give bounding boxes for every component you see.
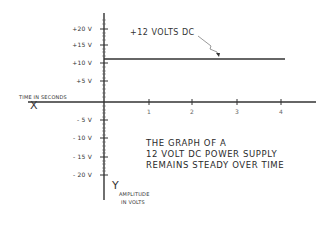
x-tick-label: 1 [147, 108, 151, 115]
series-label: +12 VOLTS DC [130, 28, 195, 37]
y-tick-label: - 15 V [58, 153, 92, 160]
y-tick-label: +15 V [58, 41, 92, 48]
y-tick-label: +10 V [58, 59, 92, 66]
y-axis-title-line1: AMPLITUDE [119, 191, 150, 197]
annotation-arrow-icon [198, 36, 220, 57]
caption-line-3: REMAINS STEADY OVER TIME [146, 160, 284, 171]
x-axis-letter: X [30, 99, 38, 112]
x-tick-label: 2 [190, 108, 194, 115]
y-axis-letter: Y [112, 179, 119, 192]
x-axis-title: TIME IN SECONDS [19, 94, 67, 100]
x-tick-label: 4 [279, 108, 283, 115]
y-tick-label: - 20 V [58, 171, 92, 178]
caption-line-2: 12 VOLT DC POWER SUPPLY [146, 149, 277, 160]
y-tick-label: +20 V [58, 25, 92, 32]
caption-line-1: THE GRAPH OF A [146, 138, 226, 149]
y-axis-title-line2: IN VOLTS [121, 199, 145, 205]
y-tick-label: +5 V [58, 77, 92, 84]
y-tick-label: - 5 V [58, 116, 92, 123]
x-tick-label: 3 [235, 108, 239, 115]
y-tick-label: - 10 V [58, 134, 92, 141]
